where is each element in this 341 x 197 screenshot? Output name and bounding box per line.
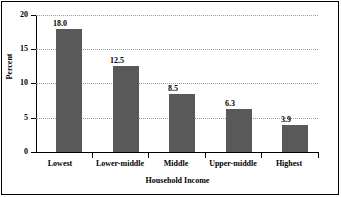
x-category-label-upper-middle: Upper-middle xyxy=(201,159,265,169)
x-category-label-lowest: Lowest xyxy=(34,159,86,169)
bar-value-label-upper-middle: 6.3 xyxy=(211,99,249,108)
x-category-label-middle: Middle xyxy=(150,159,202,169)
x-tick-mark-4 xyxy=(261,153,262,158)
x-tick-mark-5 xyxy=(318,153,319,158)
x-tick-mark-2 xyxy=(148,153,149,158)
bar-upper-middle xyxy=(226,109,252,152)
gridline-20 xyxy=(36,15,318,16)
x-tick-mark-3 xyxy=(205,153,206,158)
chart-figure: 20 15 10 5 0 18.0 12.5 8.5 6.3 3.9 Lowes… xyxy=(0,0,341,197)
y-axis-title: Percent xyxy=(5,37,14,97)
bar-value-label-middle: 8.5 xyxy=(154,84,192,93)
x-category-label-highest: Highest xyxy=(263,159,315,169)
x-axis-title: Household Income xyxy=(36,176,319,185)
x-category-label-lower-middle: Lower-middle xyxy=(88,159,152,169)
y-tick-label-20: 20 xyxy=(4,11,28,19)
x-axis-line xyxy=(36,152,319,153)
x-tick-mark-1 xyxy=(92,153,93,158)
bar-highest xyxy=(282,125,308,152)
y-tick-label-5: 5 xyxy=(4,114,28,122)
y-tick-mark-0 xyxy=(31,152,36,153)
bar-value-label-lowest: 18.0 xyxy=(41,19,79,28)
y-tick-label-0: 0 xyxy=(4,148,28,156)
bar-lowest xyxy=(56,29,82,152)
bar-value-label-lower-middle: 12.5 xyxy=(98,56,136,65)
bar-value-label-highest: 3.9 xyxy=(267,115,305,124)
bar-middle xyxy=(169,94,195,152)
bar-lower-middle xyxy=(113,66,139,152)
